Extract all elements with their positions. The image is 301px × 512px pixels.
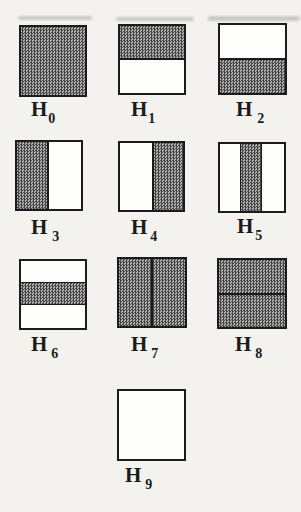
shaded-region — [240, 144, 262, 211]
hypothesis-subscript: 4 — [150, 229, 157, 244]
hypothesis-subscript: 2 — [257, 111, 264, 126]
hypothesis-label-h9: H9 — [125, 465, 152, 486]
haar-hypotheses-figure: H0H1H2H3H4H5H6H7H8H9 — [0, 0, 301, 512]
hypothesis-square-h9 — [117, 389, 186, 461]
hypothesis-subscript: 6 — [51, 346, 58, 361]
hypothesis-letter: H — [236, 97, 252, 121]
hypothesis-subscript: 8 — [255, 346, 262, 361]
hypothesis-subscript: 5 — [255, 228, 262, 243]
shaded-region — [120, 26, 184, 60]
hypothesis-label-h7: H7 — [131, 334, 158, 355]
hypothesis-letter: H — [31, 97, 47, 121]
hypothesis-square-h2 — [218, 23, 287, 95]
hypothesis-label-h0: H0 — [31, 99, 55, 120]
hypothesis-letter: H — [131, 332, 147, 356]
hypothesis-square-h0 — [19, 25, 87, 97]
hypothesis-square-h6 — [19, 259, 87, 330]
hypothesis-subscript: 0 — [48, 111, 55, 126]
hypothesis-letter: H — [31, 215, 47, 239]
hypothesis-label-h8: H8 — [235, 334, 262, 355]
hypothesis-label-h6: H6 — [31, 334, 58, 355]
hypothesis-letter: H — [131, 97, 147, 121]
hypothesis-label-h1: H1 — [131, 99, 155, 120]
hypothesis-label-h4: H4 — [131, 217, 157, 238]
shaded-region — [152, 143, 184, 210]
hypothesis-square-h1 — [118, 24, 186, 95]
hypothesis-subscript: 3 — [52, 229, 59, 244]
hypothesis-subscript: 1 — [148, 111, 155, 126]
hypothesis-letter: H — [235, 332, 251, 356]
divider-line — [151, 259, 153, 326]
hypothesis-square-h7 — [117, 257, 187, 328]
scan-artifact — [18, 16, 92, 20]
hypothesis-subscript: 7 — [151, 346, 158, 361]
hypothesis-letter: H — [31, 332, 47, 356]
hypothesis-square-h5 — [218, 142, 286, 213]
hypothesis-letter: H — [237, 214, 253, 238]
scan-artifact — [208, 16, 300, 21]
hypothesis-square-h3 — [15, 140, 83, 211]
hypothesis-square-h8 — [217, 258, 287, 329]
hypothesis-label-h5: H5 — [237, 216, 262, 237]
shaded-region — [21, 282, 85, 305]
shaded-region — [21, 27, 85, 95]
hypothesis-square-h4 — [118, 141, 185, 212]
divider-line — [219, 293, 285, 295]
hypothesis-label-h3: H3 — [31, 217, 59, 238]
hypothesis-letter: H — [131, 215, 147, 239]
hypothesis-label-h2: H2 — [236, 99, 264, 120]
shaded-region — [17, 142, 49, 209]
scan-artifact — [116, 17, 194, 21]
shaded-region — [220, 58, 285, 93]
hypothesis-letter: H — [125, 463, 141, 487]
hypothesis-subscript: 9 — [145, 477, 152, 492]
